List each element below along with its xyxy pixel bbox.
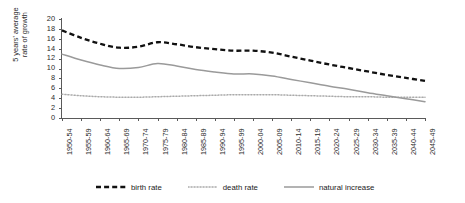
legend-label: death rate [223, 183, 258, 192]
legend-item-natural-increase[interactable]: natural increase [284, 183, 374, 192]
legend-label: birth rate [131, 183, 162, 192]
chart-legend: birth ratedeath ratenatural increase [96, 180, 396, 194]
legend-swatch-icon [284, 183, 314, 191]
chart-plot-lines [0, 0, 465, 203]
legend-item-birth-rate[interactable]: birth rate [96, 183, 162, 192]
legend-swatch-icon [188, 183, 218, 191]
legend-item-death-rate[interactable]: death rate [188, 183, 258, 192]
legend-label: natural increase [319, 183, 374, 192]
chart-container: 5 years' average rate of growth 02468101… [0, 0, 465, 203]
legend-swatch-icon [96, 183, 126, 191]
series-line-death-rate [62, 94, 425, 97]
